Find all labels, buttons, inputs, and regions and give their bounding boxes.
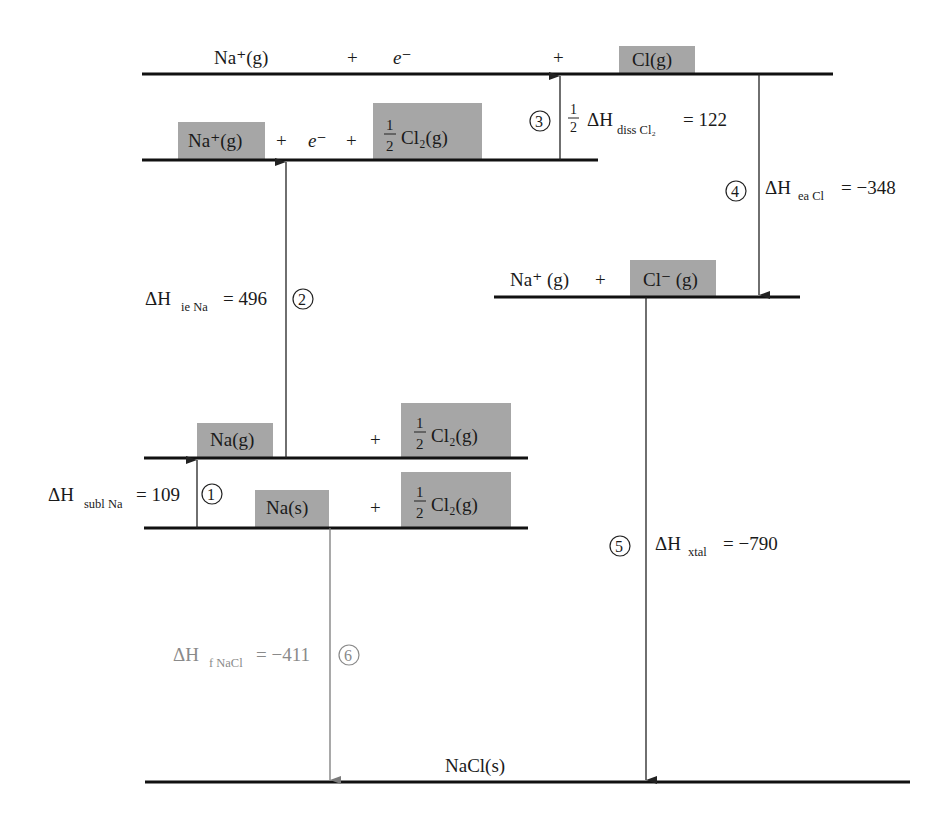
top-na-ion: Na⁺(g): [214, 47, 268, 69]
step-3-half-den: 2: [570, 120, 577, 135]
product-nacl: NaCl(s): [445, 755, 505, 777]
step-5-dh: ΔH: [655, 533, 681, 554]
step-4-sub: ea Cl: [798, 189, 825, 203]
elem-cl2: Cl₂(g): [431, 494, 478, 516]
step-6-value: = −411: [256, 644, 310, 665]
step-2-label: ΔH ie Na = 496 2: [145, 288, 313, 314]
step-1-num: 1: [207, 486, 215, 503]
level-ions: Na⁺ (g) + Cl⁻ (g): [494, 260, 800, 297]
step-4-num: 4: [731, 183, 739, 200]
gas-half-num: 1: [416, 415, 424, 431]
step-4-value: = −348: [841, 177, 896, 198]
step-3-dh: ΔH: [587, 109, 613, 130]
top-plus-2: +: [553, 47, 564, 68]
step-2-value: = 496: [223, 288, 267, 309]
ions-na-ion: Na⁺ (g): [510, 269, 569, 291]
step-1-value: = 109: [136, 484, 180, 505]
gas-na: Na(g): [210, 429, 254, 451]
step-5-value: = −790: [723, 533, 778, 554]
top-plus-1: +: [347, 47, 358, 68]
step-1-sub: subl Na: [84, 497, 123, 511]
step-3-num: 3: [535, 113, 543, 130]
ionized-half-den: 2: [386, 138, 394, 154]
step-4-dh: ΔH: [765, 177, 791, 198]
step-6-label: ΔH f NaCl = −411 6: [173, 644, 359, 670]
level-ionized: Na⁺(g) + e⁻ + 1 2 Cl₂(g): [142, 103, 598, 160]
step-6-num: 6: [344, 647, 352, 664]
step-5-label: 5 ΔH xtal = −790: [610, 533, 778, 559]
level-gas-atom: Na(g) + 1 2 Cl₂(g): [144, 403, 528, 458]
step-3-value: = 122: [683, 109, 727, 130]
level-top: Na⁺(g) + e⁻ + Cl(g): [142, 46, 833, 74]
gas-plus: +: [370, 429, 381, 450]
ionized-half-num: 1: [386, 117, 394, 133]
step-3-half-num: 1: [570, 102, 577, 117]
ions-cl-ion: Cl⁻ (g): [643, 269, 698, 291]
ionized-electron: e⁻: [308, 130, 326, 151]
step-2-dh: ΔH: [145, 288, 171, 309]
ions-plus: +: [595, 269, 606, 290]
gas-half-den: 2: [416, 436, 424, 452]
level-product: NaCl(s): [145, 755, 910, 782]
step-2-num: 2: [298, 291, 306, 308]
ionized-cl2: Cl₂(g): [401, 127, 448, 149]
step-4-label: 4 ΔH ea Cl = −348: [726, 177, 896, 203]
top-electron: e⁻: [393, 47, 411, 68]
level-elements: Na(s) + 1 2 Cl₂(g): [144, 472, 528, 528]
elem-half-num: 1: [416, 484, 424, 500]
elem-na-solid: Na(s): [266, 497, 308, 519]
step-3-sub: diss Cl₂: [617, 123, 656, 137]
step-6-sub: f NaCl: [209, 656, 243, 670]
step-5-sub: xtal: [688, 545, 707, 559]
step-6-dh: ΔH: [173, 644, 199, 665]
step-2-sub: ie Na: [181, 300, 208, 314]
ionized-na-ion: Na⁺(g): [188, 130, 242, 152]
ionized-plus-1: +: [276, 130, 287, 151]
step-1-label: ΔH subl Na = 109 1: [48, 484, 222, 511]
top-cl-atom: Cl(g): [632, 49, 672, 71]
born-haber-diagram: Na⁺(g) + e⁻ + Cl(g) Na⁺(g) + e⁻ + 1 2 Cl…: [0, 0, 935, 826]
elem-plus: +: [370, 497, 381, 518]
ionized-plus-2: +: [346, 130, 357, 151]
step-1-dh: ΔH: [48, 484, 74, 505]
elem-half-den: 2: [416, 505, 424, 521]
gas-cl2: Cl₂(g): [431, 425, 478, 447]
step-5-num: 5: [615, 538, 623, 555]
